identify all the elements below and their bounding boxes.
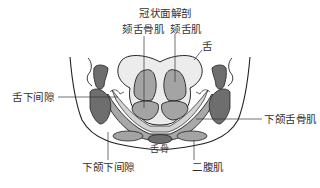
leader-tongue xyxy=(194,50,202,60)
label-sublingual-space: 舌下间隙 xyxy=(12,91,54,103)
label-mylohyoid: 下颌舌骨肌 xyxy=(264,113,317,125)
inner-contour xyxy=(87,58,92,86)
label-genioglossus: 颏舌肌 xyxy=(170,23,202,35)
digastric-left xyxy=(113,131,143,141)
anatomy-diagram: 冠状面解剖 颏舌骨肌 颏舌肌 舌 舌下间隙 下颌舌骨肌 舌骨 下颌下间隙 二腹肌 xyxy=(0,0,320,188)
label-geniohyoid: 颏舌骨肌 xyxy=(122,23,164,35)
label-digastric: 二腹肌 xyxy=(192,161,224,173)
digastric-right xyxy=(177,131,207,141)
label-tongue: 舌 xyxy=(202,40,213,52)
label-hyoid: 舌骨 xyxy=(150,143,169,155)
tooth-left-upper xyxy=(94,65,108,89)
tooth-right-upper xyxy=(212,65,226,89)
diagram-title: 冠状面解剖 xyxy=(139,7,192,19)
label-submandibular-space: 下颌下间隙 xyxy=(82,161,135,173)
